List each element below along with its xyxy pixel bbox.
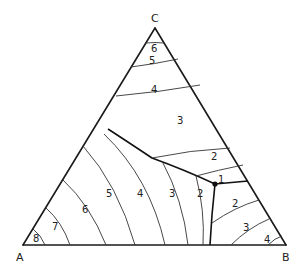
isotherm-label: 4 (151, 84, 157, 95)
isotherm-label: 5 (149, 55, 155, 66)
vertex-label-b: B (282, 251, 290, 264)
boundary-ab (210, 184, 215, 245)
a-field-isotherms (33, 134, 203, 245)
isotherm-label: 4 (137, 188, 143, 199)
ternary-eutectic-point (212, 181, 217, 186)
isotherm-label: 3 (169, 188, 175, 199)
ternary-point-label: 1 (218, 174, 224, 185)
isotherm-label: 2 (211, 151, 217, 162)
isotherm-label: 2 (232, 198, 238, 209)
vertex-label-c: C (151, 12, 159, 25)
c-field-isotherms (116, 43, 243, 177)
edge-bc (155, 28, 286, 245)
isotherm-label: 7 (52, 221, 58, 232)
isotherm-label: 4 (264, 234, 270, 245)
ternary-diagram: C A B 6 5 4 3 2 1 8 7 6 5 4 3 2 2 3 4 (0, 0, 305, 268)
isotherm-label: 3 (243, 222, 249, 233)
edge-ac (23, 28, 155, 245)
isotherm-label: 6 (82, 204, 88, 215)
isotherm-label: 2 (197, 188, 203, 199)
isotherm-label: 6 (151, 43, 157, 54)
isotherm-label: 3 (177, 115, 183, 126)
isotherm-label: 8 (33, 233, 39, 244)
vertex-label-a: A (16, 251, 24, 264)
isotherm-label: 5 (106, 188, 112, 199)
